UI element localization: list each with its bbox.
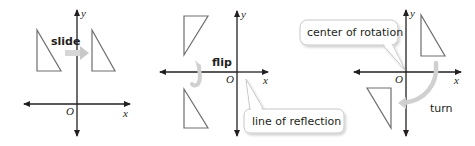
panel-slide: y x O slide xyxy=(24,7,130,136)
center-of-rotation-text: center of rotation xyxy=(307,26,403,39)
original-triangle xyxy=(421,15,445,56)
rotated-triangle xyxy=(367,88,391,128)
line-of-reflection-text: line of reflection xyxy=(252,115,341,128)
flip-arrow-icon xyxy=(192,60,201,86)
turn-label: turn xyxy=(430,102,453,115)
x-axis-label: x xyxy=(122,107,128,119)
x-axis-label: x xyxy=(453,74,459,86)
origin-label: O xyxy=(66,105,74,117)
y-axis-label: y xyxy=(80,7,86,19)
y-axis-label: y xyxy=(240,8,246,20)
original-triangle xyxy=(184,16,208,55)
y-axis-label: y xyxy=(409,7,415,19)
x-axis-label: x xyxy=(262,74,268,86)
origin-label: O xyxy=(395,73,403,85)
slide-label: slide xyxy=(51,35,80,48)
transformations-diagram: y x O slide y x O flip xyxy=(0,0,475,146)
reflected-triangle xyxy=(184,89,208,128)
origin-label: O xyxy=(226,73,234,85)
flip-label: flip xyxy=(212,56,232,69)
slid-triangle xyxy=(92,30,115,71)
